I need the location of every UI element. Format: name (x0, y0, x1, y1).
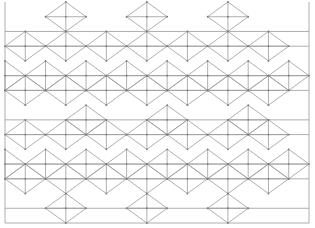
diamond-edge (268, 120, 288, 135)
diamond-shape (187, 148, 229, 179)
diamond-edge (86, 105, 106, 120)
diamond-edge (46, 164, 66, 179)
diamond-edge (5, 90, 25, 105)
diamond-edge (5, 31, 25, 46)
diamond-shape (166, 31, 208, 62)
diamond-shape (105, 148, 147, 179)
vertex-dot (85, 16, 87, 18)
diamond-edge (248, 135, 268, 150)
vertex-dot (65, 193, 67, 195)
vertex-dot (166, 75, 168, 77)
diamond-edge (268, 149, 288, 164)
diamond-edge (208, 46, 228, 61)
diamond-edge (5, 179, 25, 194)
vertex-dot (227, 104, 229, 106)
vertex-dot (166, 178, 168, 180)
vertex-dot (105, 75, 107, 77)
tessellation-canvas (0, 0, 315, 228)
diamond-edge (66, 90, 86, 105)
vertex-dot (126, 134, 128, 136)
vertex-dot (24, 119, 26, 121)
diamond-edge (268, 164, 288, 179)
diamonds (4, 1, 310, 224)
diamond-edge (187, 179, 207, 194)
vertex-dot (65, 163, 67, 165)
diamond-edge (208, 61, 228, 76)
diamond-shape (207, 193, 249, 224)
vertex-dot (146, 178, 148, 180)
diamond-edge (208, 90, 228, 105)
diamond-edge (167, 120, 187, 135)
vertex-dot (187, 60, 189, 62)
diamond-edge (228, 120, 248, 135)
vertex-dot (288, 45, 290, 47)
vertex-dot (126, 60, 128, 62)
vertex-dot (146, 45, 148, 47)
diamond-edge (127, 46, 147, 61)
vertex-dot (126, 148, 128, 150)
vertex-dot (24, 90, 26, 92)
diamond-edge (147, 76, 167, 91)
vertex-dot (126, 178, 128, 180)
vertex-dot (207, 75, 209, 77)
vertex-dot (85, 45, 87, 47)
vertex-dot (227, 119, 229, 121)
vertex-dot (45, 148, 47, 150)
diamond-edge (46, 46, 66, 61)
diamond-edge (86, 120, 106, 135)
diamond-edge (187, 76, 207, 91)
vertex-dot (247, 16, 249, 18)
vertex-dot (227, 207, 229, 209)
vertex-dot (227, 60, 229, 62)
diamond-edge (66, 31, 86, 46)
vertex-dot (207, 207, 209, 209)
diamond-shape (268, 60, 310, 91)
diamond-edge (167, 149, 187, 164)
diamond-shape (146, 104, 188, 135)
vertex-dot (288, 163, 290, 165)
vertex-dot (207, 16, 209, 18)
vertex-dot (227, 31, 229, 33)
vertex-dot (288, 148, 290, 150)
diamond-edge (167, 46, 187, 61)
diamond-edge (147, 164, 167, 179)
diamond-edge (268, 135, 288, 150)
vertex-dot (45, 16, 47, 18)
diamond-edge (147, 61, 167, 76)
diamond-edge (127, 120, 147, 135)
vertex-dot (4, 163, 6, 165)
diamond-shape (4, 31, 46, 62)
diamond-edge (127, 90, 147, 105)
diamond-edge (228, 31, 248, 46)
vertex-dot (65, 45, 67, 47)
diamond-edge (46, 61, 66, 76)
vertex-dot (45, 207, 47, 209)
vertex-dot (4, 134, 6, 136)
vertex-dot (247, 75, 249, 77)
diamond-edge (147, 105, 167, 120)
diamond-edge (86, 164, 106, 179)
vertex-dot (227, 193, 229, 195)
diamond-shape (4, 148, 26, 179)
vertex-dot (45, 163, 47, 165)
diamond-edge (147, 194, 167, 209)
diamond-edge (248, 46, 268, 61)
diamond-shape (247, 31, 289, 62)
vertex-dot (247, 163, 249, 165)
vertex-dot (146, 1, 148, 3)
diamond-edge (86, 46, 106, 61)
vertex-dot (146, 148, 148, 150)
vertex-dot (105, 119, 107, 121)
diamond-edge (187, 90, 207, 105)
vertex-dot (166, 60, 168, 62)
diamond-edge (106, 76, 126, 91)
vertex-dot (166, 163, 168, 165)
vertex-dot (105, 193, 107, 195)
diamond-shape (4, 60, 26, 91)
diamond-edge (86, 61, 106, 76)
vertex-dot (146, 16, 148, 18)
diamond-shape (126, 1, 168, 32)
diamond-edge (228, 179, 248, 194)
diamond-edge (127, 31, 147, 46)
diamond-edge (5, 76, 25, 91)
